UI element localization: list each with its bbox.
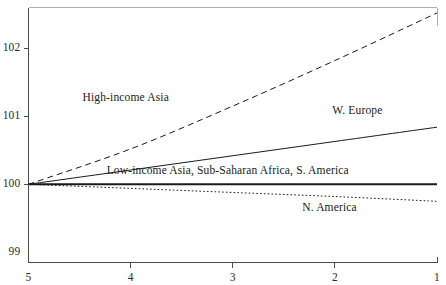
y-axis-tick-label: 101 xyxy=(0,109,21,121)
series-label: Low-income Asia, Sub-Saharan Africa, S. … xyxy=(107,164,349,176)
x-axis-tick-label: 2 xyxy=(315,271,355,283)
series-label: N. America xyxy=(302,201,357,213)
x-axis-tick-label: 3 xyxy=(213,271,253,283)
line-chart-plot xyxy=(0,0,446,285)
x-axis-tick-label: 4 xyxy=(111,271,151,283)
y-axis-tick-label: 99 xyxy=(0,245,21,257)
x-axis-tick-label: 5 xyxy=(9,271,49,283)
series-label: W. Europe xyxy=(332,104,382,116)
y-axis-tick-label: 100 xyxy=(0,177,21,189)
series-label: High-income Asia xyxy=(83,91,169,103)
chart-axes xyxy=(29,8,438,263)
chart-figure: 99100101102 54321 High-income AsiaW. Eur… xyxy=(0,0,446,285)
series-line xyxy=(29,184,438,201)
chart-ticks xyxy=(24,48,335,267)
x-axis-tick-label: 1 xyxy=(417,271,446,283)
y-axis-tick-label: 102 xyxy=(0,41,21,53)
